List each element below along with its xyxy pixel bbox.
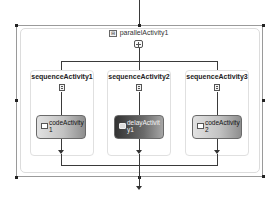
code-activity-2-label: codeActivity 2 <box>205 119 240 133</box>
parallel-activity-title: ⊟parallelActivity1 <box>0 29 277 37</box>
outgoing-arrow-icon <box>136 186 142 190</box>
delay-activity-1[interactable]: delayActivit y1 <box>114 115 164 139</box>
code-icon <box>197 123 204 129</box>
incoming-connector <box>139 0 140 25</box>
seq3-connector-top <box>217 92 218 115</box>
code-activity-1[interactable]: codeActivity 1 <box>36 115 86 139</box>
seq2-connector-top <box>139 92 140 115</box>
corner-handle-bottom-right[interactable] <box>262 175 265 178</box>
merge-riser-1 <box>61 154 62 165</box>
branch-drop-1 <box>61 61 62 70</box>
branch-drop-2 <box>139 61 140 70</box>
connector-handle-top[interactable] <box>138 24 141 27</box>
corner-handle-top-right[interactable] <box>262 24 265 27</box>
parallel-activity-label: parallelActivity1 <box>120 29 169 36</box>
code-icon <box>41 123 48 129</box>
merge-riser-3 <box>217 154 218 165</box>
sequence-activity-1-label: sequenceActivity1 <box>30 73 94 80</box>
sequence-activity-3-label: sequenceActivity3 <box>185 73 249 80</box>
parallel-stem <box>139 48 140 61</box>
corner-handle-top-left[interactable] <box>15 24 18 27</box>
branch-drop-3 <box>217 61 218 70</box>
sequence-icon <box>136 84 142 91</box>
sequence-icon <box>214 84 220 91</box>
parallel-icon <box>134 40 143 48</box>
side-handle-left[interactable] <box>15 99 18 102</box>
sequence-activity-1[interactable] <box>30 70 94 156</box>
sequence-activity-2-label: sequenceActivity2 <box>107 73 171 80</box>
side-handle-right[interactable] <box>262 99 265 102</box>
code-activity-2[interactable]: codeActivity 2 <box>192 115 242 139</box>
collapse-icon[interactable]: ⊟ <box>109 30 117 37</box>
delay-icon <box>119 123 126 129</box>
corner-handle-bottom-left[interactable] <box>15 176 18 179</box>
sequence-icon <box>59 84 65 91</box>
merge-stem <box>139 154 140 186</box>
code-activity-1-label: codeActivity 1 <box>49 119 84 133</box>
delay-activity-1-label: delayActivit y1 <box>127 119 160 133</box>
seq1-connector-top <box>61 92 62 115</box>
